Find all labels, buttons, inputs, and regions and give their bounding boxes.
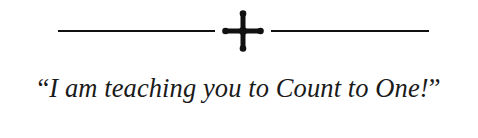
quote-text: “I am teaching you to Count to One!” <box>0 73 478 104</box>
cross-ornament-icon <box>222 10 264 52</box>
close-quote-mark: ” <box>429 73 441 103</box>
divider-line-right <box>271 30 429 32</box>
open-quote-mark: “ <box>37 73 49 103</box>
divider-line-left <box>58 30 215 32</box>
quote-body: I am teaching you to Count to One! <box>49 73 429 103</box>
